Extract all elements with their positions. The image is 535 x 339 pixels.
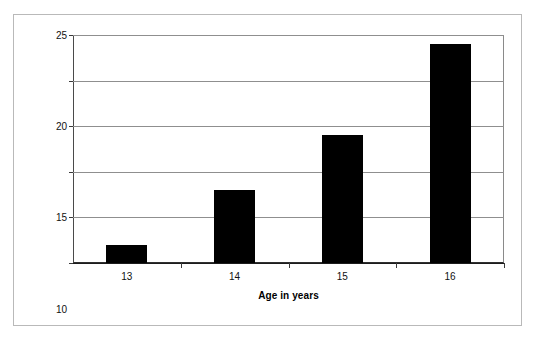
y-axis-tick-label: 25 <box>56 30 67 41</box>
y-axis-tick-mark <box>69 172 73 173</box>
bar <box>214 190 255 263</box>
x-axis-tick-label: 13 <box>121 271 132 282</box>
y-axis-tick-mark <box>69 81 73 82</box>
y-axis-tick-mark <box>69 263 73 264</box>
y-axis-tick-mark <box>69 126 73 127</box>
x-axis-tick-mark <box>504 263 505 268</box>
y-axis-tick-label: 10 <box>56 303 67 314</box>
x-axis-tick-label: 14 <box>229 271 240 282</box>
x-axis-tick-mark <box>181 263 182 268</box>
bar <box>106 245 147 263</box>
x-axis-tick-label: 16 <box>445 271 456 282</box>
y-axis-tick-mark <box>69 35 73 36</box>
x-axis-tick-mark <box>396 263 397 268</box>
y-axis-tick-label: 15 <box>56 212 67 223</box>
x-axis-tick-label: 15 <box>337 271 348 282</box>
y-axis-tick-label: 20 <box>56 121 67 132</box>
x-axis-title: Age in years <box>73 290 504 301</box>
bar <box>430 44 471 263</box>
gridline: 25 <box>73 35 504 36</box>
plot-area: 0510152025 13141516 <box>73 35 504 263</box>
x-axis-tick-mark <box>289 263 290 268</box>
y-axis-tick-mark <box>69 217 73 218</box>
chart-figure: Number of Suicides 0510152025 13141516 A… <box>0 0 535 339</box>
bar <box>322 135 363 263</box>
